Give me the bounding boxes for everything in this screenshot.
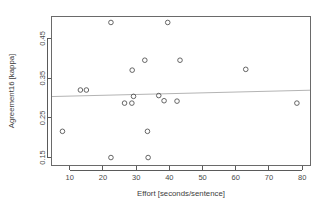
data-point xyxy=(146,155,151,160)
y-tick-label: 0.15 xyxy=(38,150,47,165)
x-tick-label: 70 xyxy=(265,173,273,182)
data-point xyxy=(109,20,114,25)
x-tick-label: 30 xyxy=(132,173,140,182)
x-axis-title: Effort [seconds/sentence] xyxy=(137,189,225,198)
plot-canvas: 1020304050607080 0.150.250.350.45 Effort… xyxy=(0,0,330,209)
data-point xyxy=(295,101,300,106)
y-axis-title: Agreement16 [kappa] xyxy=(7,54,16,129)
data-point xyxy=(178,58,183,63)
y-tick-label: 0.35 xyxy=(38,71,47,86)
x-tick-label: 20 xyxy=(99,173,107,182)
x-tick-label: 60 xyxy=(232,173,240,182)
data-point xyxy=(122,101,127,106)
data-point xyxy=(84,88,89,93)
data-point xyxy=(130,101,135,106)
data-point xyxy=(165,20,170,25)
data-point xyxy=(60,129,65,134)
x-axis-ticks: 1020304050607080 xyxy=(66,166,307,182)
trend-line-group xyxy=(52,90,311,96)
y-tick-label: 0.25 xyxy=(38,111,47,126)
y-tick-label: 0.45 xyxy=(38,31,47,46)
x-tick-label: 10 xyxy=(66,173,74,182)
x-tick-label: 80 xyxy=(298,173,306,182)
data-point xyxy=(145,129,150,134)
data-point xyxy=(130,68,135,73)
y-axis-ticks: 0.150.250.350.45 xyxy=(38,31,51,165)
data-point xyxy=(78,88,83,93)
scatter-plot-figure: 1020304050607080 0.150.250.350.45 Effort… xyxy=(0,0,330,209)
data-points-group xyxy=(60,20,299,160)
data-point xyxy=(175,99,180,104)
x-tick-label: 50 xyxy=(198,173,206,182)
x-tick-label: 40 xyxy=(165,173,173,182)
data-point xyxy=(143,58,148,63)
data-point xyxy=(162,98,167,103)
data-point xyxy=(243,67,248,72)
data-point xyxy=(109,155,114,160)
regression-trend-line xyxy=(52,90,311,96)
